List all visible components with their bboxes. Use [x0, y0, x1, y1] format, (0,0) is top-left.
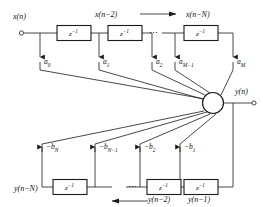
coefficient-aM-sub: M — [241, 62, 246, 68]
coefficient-b1: −b1 — [184, 143, 196, 153]
label-tap-y-n-minus-1: y(n−1) — [188, 196, 210, 204]
coefficient-b1-base: −b — [184, 142, 193, 151]
delay-exp-y1: −1 — [199, 182, 205, 188]
label-tap-y-n-minus-N: y(n−N) — [14, 185, 38, 193]
delay-label-x2: z−1 — [120, 29, 129, 38]
label-tap-y-n-minus-2: y(n−2) — [148, 196, 170, 204]
input-terminal-node — [19, 31, 23, 35]
coefficient-bN: −bN — [46, 143, 58, 153]
coefficient-b1-sub: 1 — [193, 147, 196, 153]
coefficient-a1: a1 — [103, 58, 109, 68]
delay-label-xN: z−1 — [196, 29, 205, 38]
summing-junction — [203, 93, 224, 114]
coefficient-b2-base: −b — [144, 142, 153, 151]
coefficient-b2-sub: 2 — [153, 147, 156, 153]
coefficient-aM1: aM−1 — [179, 58, 194, 68]
ellipsis-bottom: ⋯ — [128, 182, 138, 192]
coefficient-bN-sub: N — [55, 147, 59, 153]
delay-exp-xN: −1 — [199, 28, 205, 34]
coefficient-a2: a2 — [156, 58, 162, 68]
delay-label-y2: z−1 — [159, 183, 168, 192]
coefficient-bN1: −bN−1 — [99, 143, 118, 153]
label-output-signal: y(n) — [235, 88, 248, 96]
coefficient-a0-sub: 0 — [48, 62, 51, 68]
coefficient-aM1-sub: M−1 — [183, 62, 194, 68]
delay-label-x1: z−1 — [69, 29, 78, 38]
ellipsis-top: ⋯ — [149, 28, 159, 38]
delay-label-y1: z−1 — [196, 183, 205, 192]
feedforward-branches — [40, 62, 233, 100]
diagram-canvas: x(n) x(n−2) x(n−N) z−1 z−1 z−1 ⋯ a0 a1 a… — [0, 0, 263, 207]
delay-label-yN: z−1 — [65, 183, 74, 192]
coefficient-a1-sub: 1 — [107, 62, 110, 68]
output-terminal-node — [252, 101, 256, 105]
coefficient-b2: −b2 — [144, 143, 156, 153]
coefficient-a2-sub: 2 — [160, 62, 163, 68]
label-tap-x-n-minus-2: x(n−2) — [95, 11, 117, 19]
label-tap-x-n-minus-N: x(n−N) — [186, 11, 210, 19]
delay-exp-x2: −1 — [123, 28, 129, 34]
signal-flow-graph — [0, 0, 263, 207]
coefficient-bN1-base: −b — [99, 142, 108, 151]
output-feedback-line — [218, 103, 233, 187]
delay-exp-yN: −1 — [68, 182, 74, 188]
coefficient-bN1-sub: N−1 — [108, 147, 118, 153]
delay-exp-x1: −1 — [72, 28, 78, 34]
label-input-signal: x(n) — [13, 13, 26, 21]
coefficient-aM: aM — [237, 58, 245, 68]
coefficient-a0: a0 — [44, 58, 50, 68]
coefficient-bN-base: −b — [46, 142, 55, 151]
delay-exp-y2: −1 — [162, 182, 168, 188]
